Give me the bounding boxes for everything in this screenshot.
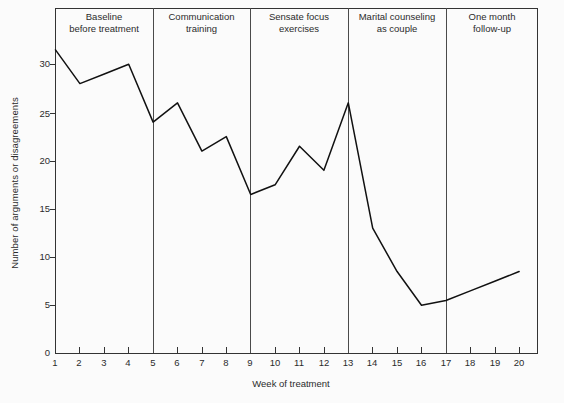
chart-figure: Number of arguments or disagreements Wee…: [0, 0, 564, 403]
x-tick-marks: [80, 347, 520, 353]
y-tick-marks: [50, 65, 55, 306]
phase-dividers: [154, 8, 447, 353]
data-series-line: [56, 50, 520, 305]
axis-frame: [55, 8, 538, 354]
chart-canvas: [0, 0, 564, 403]
